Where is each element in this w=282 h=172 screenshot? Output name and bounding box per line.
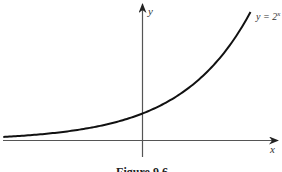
figure-caption: Figure 9.6 bbox=[116, 165, 168, 172]
exponential-curve bbox=[3, 12, 250, 137]
curve-label: y = 2x bbox=[255, 10, 281, 22]
y-axis-label: y bbox=[147, 5, 153, 17]
curve-label-base: y = 2 bbox=[255, 11, 277, 22]
exponential-plot: y x y = 2x Figure 9.6 bbox=[0, 0, 282, 172]
x-axis-label: x bbox=[269, 143, 275, 155]
curve-label-exponent: x bbox=[276, 10, 281, 18]
